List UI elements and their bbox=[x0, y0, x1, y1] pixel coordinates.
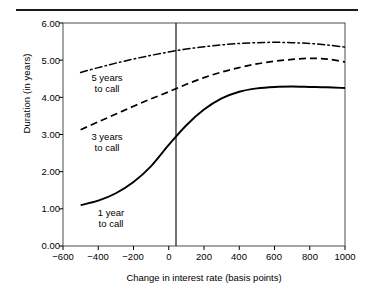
y-axis-ticks bbox=[59, 23, 63, 246]
series-line-three-years-to-call bbox=[81, 58, 345, 129]
series-line-five-years-to-call bbox=[81, 42, 345, 72]
figure-container: Duration (in years) Change in interest r… bbox=[0, 0, 374, 298]
x-axis-ticks bbox=[63, 246, 345, 250]
series-group bbox=[81, 42, 345, 205]
plot-area-wrapper: Duration (in years) Change in interest r… bbox=[0, 0, 374, 298]
axes-group bbox=[59, 23, 345, 250]
chart-svg bbox=[0, 0, 374, 298]
plot-frame bbox=[63, 23, 345, 246]
series-line-one-year-to-call bbox=[81, 87, 345, 206]
